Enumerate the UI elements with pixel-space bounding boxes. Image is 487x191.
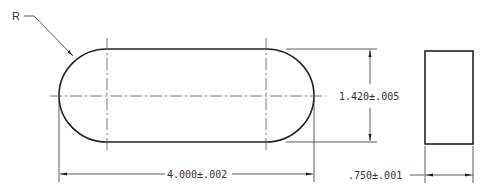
- radius-label: R: [12, 10, 20, 22]
- length-dimension-label: 4.000±.002: [167, 169, 227, 180]
- thickness-dimension-label: .750±.001: [348, 170, 402, 181]
- width-dimension-label: 1.420±.005: [339, 91, 399, 102]
- radius-callout: R: [12, 10, 73, 56]
- side-view: .750±.001: [348, 51, 473, 183]
- technical-drawing: R 1.420±.005 4.000±.002 .750±.001: [0, 0, 487, 191]
- width-dimension: 1.420±.005: [286, 49, 399, 142]
- obround-outline: [59, 49, 314, 142]
- radius-leader: [24, 16, 73, 56]
- front-view: [50, 38, 326, 152]
- side-view-rectangle: [425, 51, 473, 144]
